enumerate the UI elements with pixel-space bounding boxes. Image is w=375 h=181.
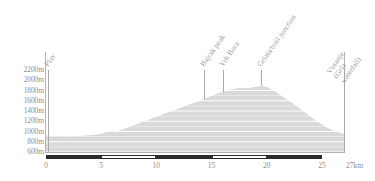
x-tick-label: 10 bbox=[153, 162, 161, 170]
x-tick-label: 0 bbox=[44, 162, 48, 170]
x-tick-label: 27km bbox=[346, 162, 363, 170]
x-tick-label: 5 bbox=[99, 162, 103, 170]
x-axis-tick-labels: 051015202527km bbox=[0, 0, 375, 181]
scale-bar-segment bbox=[46, 155, 101, 159]
x-tick-label: 15 bbox=[208, 162, 216, 170]
elevation-profile-chart: 600m800m1000m1200m1400m1600m1800m2000m22… bbox=[0, 0, 375, 181]
scale-bar-segment bbox=[212, 155, 267, 159]
scale-bar-segment bbox=[156, 155, 211, 159]
scale-bar-segment bbox=[101, 155, 156, 159]
scale-bar-segment bbox=[267, 155, 322, 159]
x-tick-label: 25 bbox=[318, 162, 326, 170]
x-tick-label: 20 bbox=[263, 162, 271, 170]
